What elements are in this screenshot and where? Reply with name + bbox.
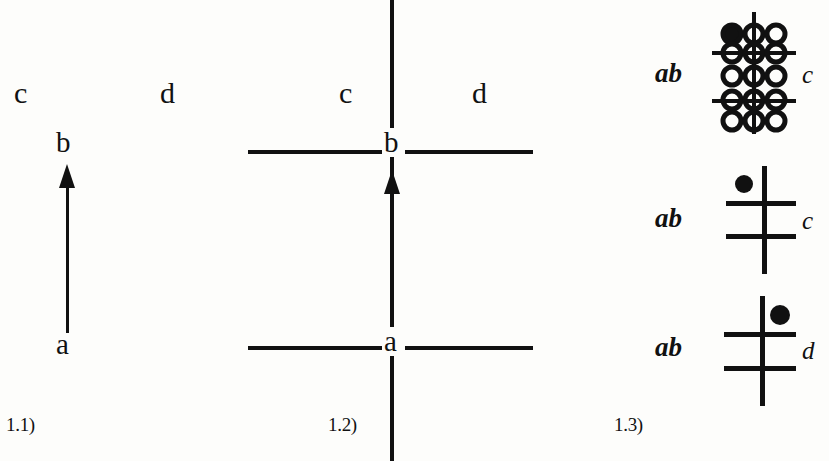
- cross-with-dot-graphic: [712, 296, 796, 406]
- panel-1-1-caption: 1.1): [6, 415, 35, 434]
- panel-1-2-node-a: a: [382, 327, 399, 356]
- quadrant-dot-upper-right: [770, 305, 790, 325]
- panel-1-2-region-label-d: d: [472, 78, 487, 108]
- panel-1-1: c d b a 1.1): [0, 0, 230, 461]
- panel-1-1-region-label-d: d: [160, 78, 175, 108]
- panel-1-3-row-2-right-label: c: [802, 208, 813, 233]
- panel-1-2-node-b: b: [382, 128, 401, 157]
- panel-1-2-region-label-c: c: [339, 78, 352, 108]
- panel-1-3-row-3-cross: [712, 296, 796, 406]
- quadrant-dot-upper-left: [735, 175, 753, 193]
- panel-1-2-caption: 1.2): [328, 415, 357, 434]
- panel-1-3-row-1-lattice: [710, 12, 798, 134]
- panel-1-3: ab: [600, 0, 829, 461]
- panel-1-3-row-2-left-label: ab: [655, 205, 682, 232]
- panel-1-3-row-1-left-label: ab: [655, 60, 682, 87]
- panel-1-3-row-3-left-label: ab: [655, 334, 682, 361]
- panel-1-3-row-3-right-label: d: [802, 338, 815, 363]
- panel-1-1-arrow-head: [59, 164, 75, 188]
- cross-with-dot-graphic: [712, 166, 796, 274]
- panel-1-2-horizontal-rule-a-left: [248, 346, 382, 350]
- panel-1-2: c d b a 1.2): [230, 0, 600, 461]
- panel-1-2-horizontal-rule-b-left: [248, 150, 382, 154]
- panel-1-2-horizontal-rule-b-right: [405, 150, 533, 154]
- panel-1-1-node-a: a: [56, 330, 69, 359]
- panel-1-1-arrow-shaft: [66, 186, 69, 333]
- panel-1-2-horizontal-rule-a-right: [405, 346, 533, 350]
- figure-canvas: c d b a 1.1) c d b a 1.2) ab: [0, 0, 829, 461]
- panel-1-1-node-b: b: [56, 128, 71, 157]
- panel-1-3-row-1-right-label: c: [802, 62, 813, 87]
- panel-1-2-arrow-head: [384, 170, 400, 194]
- panel-1-3-caption: 1.3): [614, 415, 643, 434]
- panel-1-1-region-label-c: c: [14, 78, 27, 108]
- panel-1-3-row-2-cross: [712, 166, 796, 274]
- ring-lattice-graphic: [710, 12, 798, 134]
- panel-1-2-vertical-divider: [390, 0, 394, 461]
